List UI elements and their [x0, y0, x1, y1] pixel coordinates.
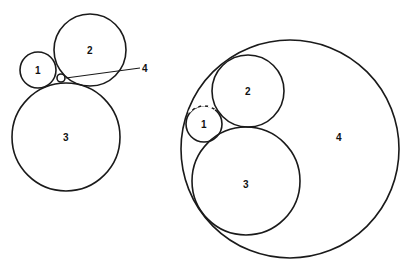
callout-line — [66, 68, 140, 78]
tangent-circles-diagram: 1 2 3 4 1 2 3 4 — [0, 0, 410, 270]
left-label-2: 2 — [87, 45, 93, 56]
right-label-1: 1 — [201, 119, 207, 130]
left-label-1: 1 — [35, 65, 41, 76]
right-label-4: 4 — [336, 132, 342, 143]
left-label-3: 3 — [63, 132, 69, 143]
left-circle-4-small — [57, 74, 65, 82]
right-label-2: 2 — [245, 86, 251, 97]
left-label-4: 4 — [142, 63, 148, 74]
right-label-3: 3 — [243, 179, 249, 190]
dashed-arc — [189, 105, 215, 112]
